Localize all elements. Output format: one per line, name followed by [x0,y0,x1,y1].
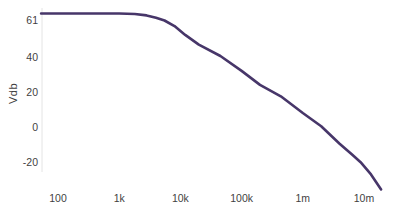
x-tick-label: 10k [172,192,189,204]
x-tick-label: 100 [49,192,67,204]
plot-area [0,0,397,216]
x-tick-label: 10m [354,192,374,204]
y-tick-label: 61 [0,14,38,26]
bode-magnitude-plot: Vdb 6140200-20 1001k10k100k1m10m [0,0,397,216]
x-tick-label: 100k [230,192,253,204]
x-tick-label: 1m [296,192,311,204]
y-tick-label: -20 [0,156,38,168]
gain-curve [41,14,381,190]
x-tick-label: 1k [114,192,125,204]
y-tick-label: 20 [0,86,38,98]
y-tick-label: 40 [0,51,38,63]
y-tick-label: 0 [0,121,38,133]
